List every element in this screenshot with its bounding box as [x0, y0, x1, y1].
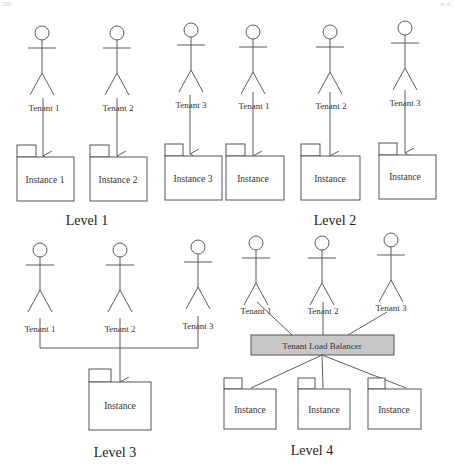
- tenant-label: Tenant 1: [238, 101, 269, 111]
- tenant-actor-icon: [316, 25, 344, 94]
- tenant-actor-icon: [242, 236, 270, 305]
- tenant-actor-icon: [391, 21, 419, 90]
- level-caption: Level 1: [66, 213, 108, 228]
- tenant-actor-icon: [308, 236, 336, 305]
- tenant-actor-icon: [177, 23, 205, 92]
- tenant-label: Tenant 2: [102, 103, 133, 113]
- load-balancer-label: Tenant Load Balancer: [282, 341, 361, 351]
- tenant-label: Tenant 1: [28, 103, 59, 113]
- instance-label: Instance: [308, 405, 340, 415]
- level-1-diagram: Tenant 1 Tenant 2 Tenant 3 Instance 1 In…: [17, 23, 222, 228]
- running-header: et al.: [440, 1, 452, 7]
- instance-label: Instance: [104, 401, 136, 411]
- package-tab-icon: [89, 369, 111, 382]
- page-number: 200: [2, 1, 11, 7]
- instance-label: Instance: [234, 405, 266, 415]
- level-4-diagram: Tenant 1 Tenant 2 Tenant 3 Tenant Load B…: [224, 233, 421, 458]
- instance-label: Instance: [389, 172, 421, 182]
- package-tab-icon: [379, 143, 397, 155]
- tenant-actor-icon: [106, 243, 134, 312]
- tenant-actor-icon: [184, 240, 212, 309]
- package-tab-icon: [90, 145, 109, 157]
- package-tab-icon: [17, 145, 36, 157]
- package-tab-icon: [301, 144, 320, 156]
- tenant-actor-icon: [26, 243, 54, 312]
- instance-label: Instance 2: [99, 175, 138, 185]
- tenant-label: Tenant 2: [315, 101, 346, 111]
- instance-label: Instance: [314, 174, 346, 184]
- package-tab-icon: [298, 378, 315, 389]
- tenant-actor-icon: [239, 25, 267, 94]
- package-tab-icon: [224, 378, 242, 389]
- tenant-label: Tenant 3: [175, 100, 207, 110]
- level-2-diagram: Tenant 1 Tenant 2 Tenant 3 Instance Inst…: [226, 21, 436, 228]
- instance-label: Instance: [237, 174, 269, 184]
- level-caption: Level 4: [291, 443, 333, 458]
- level-caption: Level 2: [314, 213, 356, 228]
- level-3-diagram: Tenant 1 Tenant 2 Tenant 3 Instance Leve…: [24, 240, 214, 460]
- instance-label: Instance 3: [174, 174, 213, 184]
- instance-label: Instance 1: [26, 175, 65, 185]
- instance-label: Instance: [378, 405, 410, 415]
- package-tab-icon: [165, 144, 183, 156]
- multi-tenancy-levels-diagram: 200 et al. Tenant 1 Tenant 2 Tenant 3 In…: [0, 0, 454, 474]
- tenant-actor-icon: [103, 26, 131, 95]
- level-caption: Level 3: [94, 445, 136, 460]
- tenant-label: Tenant 3: [375, 303, 407, 313]
- package-tab-icon: [226, 144, 245, 156]
- tenant-actor-icon: [28, 26, 56, 95]
- tenant-actor-icon: [377, 233, 405, 302]
- package-tab-icon: [368, 378, 385, 389]
